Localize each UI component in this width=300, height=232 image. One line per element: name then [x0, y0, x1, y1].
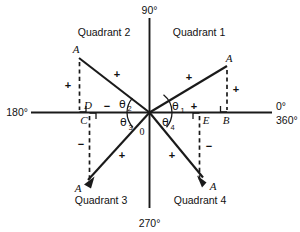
q1-right-angle-mark — [221, 106, 228, 112]
quadrant-3-label: Quadrant 3 — [75, 194, 128, 206]
q2-vertical-sign: + — [65, 79, 71, 91]
q1-theta-symbol: θ — [172, 100, 179, 113]
quadrant-4-label: Quadrant 4 — [174, 194, 227, 206]
q4-theta-subscript: 4 — [171, 123, 175, 132]
q2-horizontal-sign: − — [104, 100, 110, 112]
q1-vertex-label: A — [225, 52, 233, 64]
q3-theta-subscript: 3 — [129, 123, 133, 132]
q2-theta-symbol: θ — [119, 98, 126, 111]
axis-label-right-full: 360° — [276, 114, 298, 126]
axis-label-right-zero: 0° — [276, 100, 286, 112]
q1-theta-subscript: 1 — [181, 106, 185, 115]
q3-hypotenuse — [88, 113, 150, 181]
q2-vertex-label: A — [72, 43, 80, 55]
point-label-b: B — [223, 114, 230, 126]
point-label-c: C — [80, 114, 88, 126]
q1-angle-label: θ 1 — [172, 100, 185, 115]
q2-hypotenuse-sign: + — [114, 68, 120, 80]
axis-label-left: 180° — [6, 106, 28, 118]
trig-quadrant-diagram: 90° 270° 180° 0° 360° Quadrant 2 Quadran… — [0, 0, 300, 232]
q2-theta-subscript: 2 — [128, 104, 132, 113]
q4-hypotenuse — [150, 113, 204, 178]
origin-label: 0 — [140, 126, 145, 137]
quadrant-2-label: Quadrant 2 — [78, 26, 131, 38]
axis-label-bottom: 270° — [139, 217, 161, 229]
point-label-d: D — [83, 99, 92, 111]
q4-theta-symbol: θ — [162, 116, 169, 129]
q4-vertex-label: A — [209, 180, 217, 192]
q3-angle-label: θ 3 — [120, 116, 133, 132]
q1-vertical-sign: + — [233, 83, 239, 95]
axis-label-top: 90° — [142, 4, 158, 16]
q1-hypotenuse-sign: + — [186, 71, 192, 83]
quadrant-1-label: Quadrant 1 — [173, 26, 226, 38]
q3-vertical-sign: − — [78, 138, 84, 150]
q2-angle-label: θ 2 — [119, 98, 132, 113]
q3-vertex-label: A — [74, 182, 82, 194]
q1-horizontal-sign: + — [191, 100, 197, 112]
q3-theta-symbol: θ — [120, 116, 127, 129]
diagram-canvas: 90° 270° 180° 0° 360° Quadrant 2 Quadran… — [0, 0, 300, 232]
q3-hypotenuse-sign: + — [119, 149, 125, 161]
q4-right-angle-mark — [193, 113, 200, 119]
q4-hypotenuse-sign: + — [169, 149, 175, 161]
q3-right-angle-mark — [90, 113, 97, 119]
point-label-e: E — [202, 114, 210, 126]
q4-vertical-sign: − — [206, 140, 212, 152]
